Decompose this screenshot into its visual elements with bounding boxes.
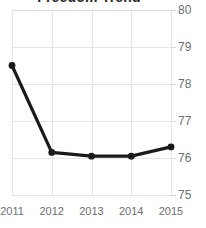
- y-tick-label-77: 77: [178, 114, 204, 128]
- x-tick-label-2011: 2011: [0, 205, 32, 217]
- chart-title: Freedom Trend: [0, 0, 178, 5]
- y-tick-label-75: 75: [178, 188, 204, 202]
- y-tick-label-79: 79: [178, 40, 204, 54]
- data-point-2012: [48, 149, 55, 156]
- y-tick-label-78: 78: [178, 77, 204, 91]
- series-line-score: [12, 10, 171, 195]
- x-tick-label-2014: 2014: [111, 205, 151, 217]
- data-point-2013: [88, 153, 95, 160]
- x-tick-label-2013: 2013: [72, 205, 112, 217]
- x-tick-label-2015: 2015: [151, 205, 191, 217]
- data-point-2011: [9, 62, 16, 69]
- data-point-2014: [128, 153, 135, 160]
- gridline-x-2015: [171, 10, 172, 195]
- y-tick-label-80: 80: [178, 3, 204, 17]
- line-chart: Freedom Trend 757677787980 2011201220132…: [0, 0, 206, 228]
- y-tick-75: [171, 195, 176, 196]
- x-tick-label-2012: 2012: [32, 205, 72, 217]
- y-tick-label-76: 76: [178, 151, 204, 165]
- plot-area: [12, 10, 171, 195]
- data-point-2015: [168, 144, 175, 151]
- gridline-y-75: [12, 195, 171, 196]
- series-polyline: [12, 66, 171, 157]
